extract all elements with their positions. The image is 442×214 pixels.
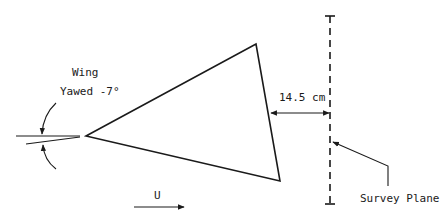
yaw-arrow-lower-icon (43, 145, 56, 169)
survey-plane-leader-arrow (333, 142, 388, 186)
distance-label: 14.5 cm (279, 91, 326, 104)
delta-wing-shape (86, 44, 280, 181)
survey-plane-label: Survey Plane (360, 192, 439, 205)
wing-label: Wing (72, 66, 99, 79)
yaw-angle-label: Yawed -7° (60, 85, 120, 98)
yaw-arrow-upper-icon (42, 103, 56, 134)
freestream-label: U (154, 189, 161, 202)
wing-survey-diagram: Wing Yawed -7° 14.5 cm Survey Plane U (0, 0, 442, 214)
yawed-axis-line (26, 137, 80, 144)
